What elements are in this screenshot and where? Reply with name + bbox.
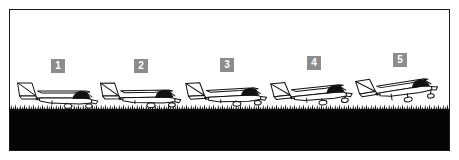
step-label-2: 2 (134, 59, 148, 73)
ground-field (10, 109, 449, 150)
step-label-4: 4 (307, 56, 321, 70)
airplane-step-1 (16, 77, 102, 111)
airplane-step-3 (183, 73, 271, 111)
step-label-1: 1 (51, 59, 65, 73)
takeoff-sequence-figure: 1 2 3 4 5 (0, 0, 459, 160)
airplane-step-2 (98, 76, 185, 111)
step-label-3: 3 (220, 58, 234, 72)
illustration-frame: 1 2 3 4 5 (9, 9, 450, 151)
step-label-5: 5 (393, 53, 407, 67)
